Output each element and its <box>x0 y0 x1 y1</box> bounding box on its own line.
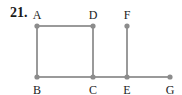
vertex-d <box>90 23 95 28</box>
vertex-label-a: A <box>33 9 42 21</box>
vertex-label-e: E <box>123 84 130 95</box>
vertex-g <box>167 74 172 79</box>
vertex-label-f: F <box>124 9 131 21</box>
vertex-a <box>34 23 39 28</box>
vertex-label-g: G <box>166 84 175 95</box>
vertex-label-d: D <box>89 9 98 21</box>
vertex-c <box>90 74 95 79</box>
vertex-f <box>124 23 129 28</box>
vertex-b <box>34 74 39 79</box>
vertex-label-b: B <box>33 84 41 95</box>
vertex-e <box>124 74 129 79</box>
vertex-label-c: C <box>89 84 97 95</box>
